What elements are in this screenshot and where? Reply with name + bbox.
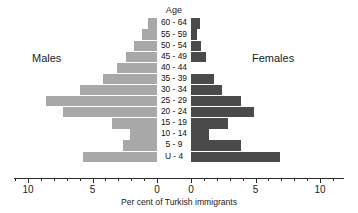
- pyramid-row: 45 - 49: [0, 51, 358, 62]
- axis-tick-label: 0: [176, 184, 206, 195]
- axis-tick-major: [28, 178, 29, 183]
- age-group-label: 15 - 19: [157, 117, 191, 128]
- male-bar: [148, 18, 157, 28]
- axis-tick-minor: [281, 178, 282, 181]
- pyramid-row: 60 - 64: [0, 18, 358, 29]
- pyramid-row: 55 - 59: [0, 29, 358, 40]
- female-bar: [191, 96, 241, 106]
- age-group-label: 55 - 59: [157, 29, 191, 40]
- male-bar: [126, 52, 157, 62]
- pyramid-row: 50 - 54: [0, 40, 358, 51]
- pyramid-row: 30 - 34: [0, 85, 358, 96]
- axis-tick-minor: [144, 178, 145, 181]
- axis-tick-major: [93, 178, 94, 183]
- male-bar: [103, 74, 157, 84]
- axis-tick-minor: [204, 178, 205, 181]
- male-bar: [80, 85, 157, 95]
- age-group-label: 40 - 44: [157, 62, 191, 73]
- pyramid-row: 10 - 14: [0, 129, 358, 140]
- axis-tick-minor: [118, 178, 119, 181]
- axis-tick-label: 5: [241, 184, 271, 195]
- female-bar: [191, 41, 201, 51]
- pyramid-row: 25 - 29: [0, 96, 358, 107]
- axis-tick-label: 0: [142, 184, 172, 195]
- male-bar: [130, 129, 157, 139]
- female-bar: [191, 118, 228, 128]
- age-group-label: U - 4: [157, 151, 191, 162]
- age-axis-header: Age: [157, 5, 191, 15]
- female-bar: [191, 18, 200, 28]
- age-group-label: 10 - 14: [157, 128, 191, 139]
- age-group-label: 50 - 54: [157, 40, 191, 51]
- female-bar: [191, 85, 222, 95]
- axis-tick-major: [256, 178, 257, 183]
- age-group-label: 5 - 9: [157, 139, 191, 150]
- female-bar: [191, 107, 254, 117]
- axis-tick-minor: [67, 178, 68, 181]
- pyramid-row: 20 - 24: [0, 107, 358, 118]
- axis-tick-minor: [217, 178, 218, 181]
- male-bar: [112, 118, 157, 128]
- axis-tick-minor: [268, 178, 269, 181]
- age-group-label: 60 - 64: [157, 17, 191, 28]
- population-pyramid-chart: Age Males Females 60 - 6455 - 5950 - 544…: [0, 0, 358, 213]
- male-bar: [123, 140, 157, 150]
- age-group-label: 35 - 39: [157, 73, 191, 84]
- axis-tick-minor: [243, 178, 244, 181]
- axis-tick-label: 10: [305, 184, 335, 195]
- male-bar: [63, 107, 157, 117]
- axis-tick-minor: [15, 178, 16, 181]
- age-group-label: 20 - 24: [157, 106, 191, 117]
- female-bar: [191, 129, 209, 139]
- pyramid-row: 35 - 39: [0, 73, 358, 84]
- axis-tick-minor: [307, 178, 308, 181]
- male-bar: [142, 29, 157, 39]
- pyramid-row: 5 - 9: [0, 140, 358, 151]
- axis-tick-label: 10: [13, 184, 43, 195]
- axis-tick-minor: [131, 178, 132, 181]
- axis-tick-major: [320, 178, 321, 183]
- pyramid-row: U - 4: [0, 151, 358, 162]
- pyramid-row: 40 - 44: [0, 62, 358, 73]
- axis-tick-minor: [54, 178, 55, 181]
- age-group-label: 45 - 49: [157, 51, 191, 62]
- female-bar: [191, 29, 197, 39]
- axis-tick-minor: [41, 178, 42, 181]
- axis-tick-major: [191, 178, 192, 183]
- male-bar: [46, 96, 157, 106]
- axis-tick-minor: [105, 178, 106, 181]
- female-bar: [191, 152, 280, 162]
- age-group-label: 25 - 29: [157, 95, 191, 106]
- age-group-label: 30 - 34: [157, 84, 191, 95]
- axis-tick-minor: [294, 178, 295, 181]
- male-bar: [134, 41, 157, 51]
- x-axis-caption: Per cent of Turkish immigrants: [0, 197, 358, 207]
- female-bar: [191, 140, 241, 150]
- male-bar: [83, 152, 157, 162]
- male-bar: [117, 63, 157, 73]
- axis-tick-minor: [80, 178, 81, 181]
- female-bar: [191, 52, 206, 62]
- axis-tick-major: [157, 178, 158, 183]
- axis-tick-minor: [230, 178, 231, 181]
- pyramid-row: 15 - 19: [0, 118, 358, 129]
- female-bar: [191, 74, 214, 84]
- axis-tick-minor: [333, 178, 334, 181]
- axis-tick-label: 5: [78, 184, 108, 195]
- pyramid-rows: 60 - 6455 - 5950 - 5445 - 4940 - 4435 - …: [0, 18, 358, 162]
